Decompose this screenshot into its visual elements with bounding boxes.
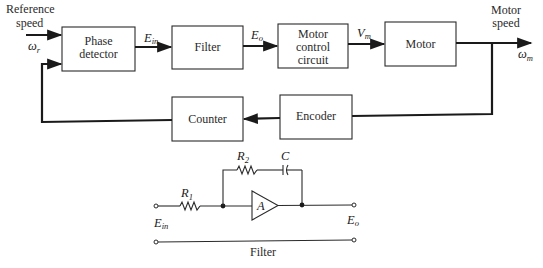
motor-control-circuit-block: Motor control circuit: [278, 24, 348, 68]
e-o-label: Eo: [250, 28, 263, 43]
encoder-to-counter-arrow: [244, 118, 280, 119]
feedback-to-phase-detector: [42, 64, 172, 122]
circuit-e-o-label: Eo: [346, 213, 359, 228]
encoder-block: Encoder: [280, 95, 352, 139]
input-terminal-bottom: [154, 240, 158, 244]
motor-speed-output: Motor speed ωm: [456, 3, 533, 63]
r2-label: R2: [236, 149, 250, 165]
reference-symbol: ωr: [28, 39, 41, 55]
reference-speed-label-1: Reference: [6, 2, 55, 16]
motor-control-label-2: control: [296, 40, 331, 54]
motor-block: Motor: [385, 22, 456, 66]
pll-motor-speed-control-diagram: Reference speed ωr Phase detector Ein Fi…: [0, 0, 543, 268]
counter-block: Counter: [172, 97, 243, 141]
reference-speed-label-2: speed: [16, 16, 43, 30]
circuit-e-in-label: Ein: [153, 216, 168, 231]
motor-speed-label-1: Motor: [491, 3, 521, 17]
junction-right: [300, 203, 305, 208]
circuit-caption: Filter: [250, 245, 276, 259]
op-amp: [252, 191, 278, 220]
resistor-r2: [237, 166, 257, 174]
filter-label: Filter: [195, 40, 221, 54]
motor-label: Motor: [406, 37, 436, 51]
r1-label: R1: [180, 186, 193, 202]
input-terminal-top: [154, 204, 158, 208]
phase-detector-label-1: Phase: [85, 34, 113, 48]
filter-circuit-schematic: R1 R2 C A Ein Eo Filter: [153, 149, 359, 259]
encoder-label: Encoder: [296, 109, 336, 123]
phase-detector-block: Phase detector: [62, 27, 135, 71]
filter-block: Filter: [172, 26, 243, 69]
output-terminal-bottom: [352, 238, 356, 242]
v-m-label: Vm: [357, 26, 371, 41]
counter-label: Counter: [188, 112, 227, 126]
phase-detector-label-2: detector: [79, 47, 118, 61]
amp-label: A: [256, 199, 265, 213]
c-label: C: [281, 149, 290, 163]
reference-speed-input: Reference speed ωr: [6, 2, 61, 55]
resistor-r1: [180, 202, 200, 210]
output-terminal-top: [352, 203, 356, 207]
motor-control-label-1: Motor: [298, 27, 328, 41]
motor-speed-symbol: ωm: [518, 47, 533, 63]
motor-control-label-3: circuit: [298, 53, 329, 67]
motor-speed-label-2: speed: [492, 16, 519, 30]
e-in-label: Ein: [143, 31, 158, 46]
